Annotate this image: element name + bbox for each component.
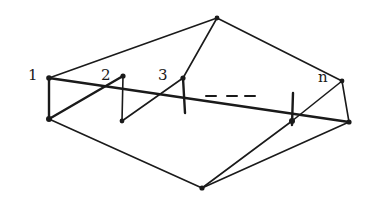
edge-bottom-nb bbox=[202, 122, 349, 188]
node-top bbox=[215, 16, 220, 21]
node-1a bbox=[46, 75, 52, 81]
label-vertex-n: n bbox=[318, 70, 328, 85]
node-na bbox=[340, 79, 345, 84]
edge-1b-bottom bbox=[49, 119, 202, 188]
label-vertex-2: 2 bbox=[101, 68, 111, 83]
edge-na-nb bbox=[342, 81, 349, 122]
label-vertex-1: 1 bbox=[28, 68, 38, 83]
edge-m-na bbox=[292, 81, 342, 121]
graph-diagram bbox=[0, 0, 371, 202]
node-2b bbox=[120, 119, 125, 124]
node-2a bbox=[120, 73, 125, 78]
label-vertex-3: 3 bbox=[158, 68, 168, 83]
edge-top-3a bbox=[183, 18, 217, 78]
node-m bbox=[289, 118, 295, 124]
node-bottom bbox=[199, 185, 204, 190]
node-nb bbox=[346, 119, 351, 124]
edge-1a-nb-spine bbox=[49, 78, 349, 122]
edge-2a-2b bbox=[122, 76, 123, 121]
edge-1a-top bbox=[49, 18, 217, 78]
node-1b bbox=[46, 116, 52, 122]
node-3a bbox=[180, 75, 185, 80]
edge-2b-3a bbox=[122, 78, 183, 121]
edge-3a-3b bbox=[183, 78, 185, 113]
